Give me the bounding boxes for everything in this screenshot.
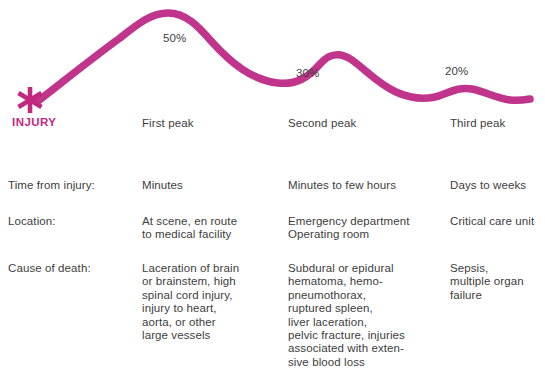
column-header-first-peak: First peak (142, 117, 194, 129)
cell-time-third-peak: Days to weeks (450, 179, 542, 192)
row-label-time-from-injury: Time from injury: (8, 179, 95, 191)
column-header-third-peak: Third peak (450, 117, 505, 129)
row-label-cause-of-death: Cause of death: (8, 262, 91, 274)
cell-time-first-peak: Minutes (142, 179, 287, 192)
peak-1-percent-label: 50% (163, 32, 186, 44)
cell-cause-first-peak: Laceration of brain or brainstem, high s… (142, 262, 287, 342)
row-label-location: Location: (8, 215, 56, 227)
injury-label: INJURY (12, 116, 56, 128)
column-header-second-peak: Second peak (288, 117, 356, 129)
cell-cause-third-peak: Sepsis, multiple organ failure (450, 262, 542, 302)
peak-2-percent-label: 30% (296, 67, 319, 79)
cell-location-third-peak: Critical care unit (450, 215, 542, 228)
mortality-curve-path (38, 13, 530, 101)
cell-location-second-peak: Emergency department Operating room (288, 215, 448, 242)
cell-cause-second-peak: Subdural or epidural hematoma, hemo- pne… (288, 262, 448, 369)
asterisk-star-icon (14, 85, 46, 115)
trimodal-trauma-death-figure: 50% 30% 20% INJURY First peak Second pea… (0, 0, 545, 381)
asterisk-star-svg (14, 85, 46, 115)
peak-3-percent-label: 20% (445, 65, 468, 77)
cell-time-second-peak: Minutes to few hours (288, 179, 448, 192)
cell-location-first-peak: At scene, en route to medical facility (142, 215, 287, 242)
